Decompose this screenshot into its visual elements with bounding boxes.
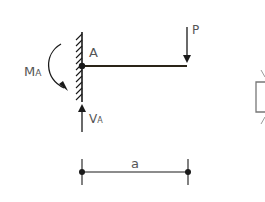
moment-arrow-ma bbox=[49, 44, 68, 91]
shear-label-sub: A bbox=[97, 116, 103, 125]
moment-label: MA bbox=[24, 64, 42, 79]
partial-diagram-fragment bbox=[256, 70, 265, 124]
node-a bbox=[79, 63, 85, 69]
dimension-label: a bbox=[131, 156, 139, 171]
node-label: A bbox=[89, 45, 98, 60]
cantilever-diagram: A P MA VA a bbox=[0, 0, 265, 202]
load-arrow-p bbox=[183, 27, 191, 63]
moment-label-main: M bbox=[24, 64, 35, 79]
moment-label-sub: A bbox=[35, 68, 42, 78]
load-label: P bbox=[192, 23, 199, 37]
shear-arrow-va bbox=[78, 104, 86, 132]
shear-label: VA bbox=[89, 112, 103, 126]
